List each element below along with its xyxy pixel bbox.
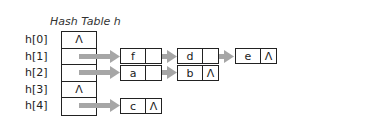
chain-node-c: c Λ — [120, 98, 162, 114]
chain-node-a: a — [120, 65, 162, 81]
chain-node-d: d — [177, 48, 219, 64]
chain-node-b: b Λ — [177, 65, 219, 81]
chain-node-f: f — [120, 48, 162, 64]
chain-node-e: e Λ — [235, 48, 277, 64]
